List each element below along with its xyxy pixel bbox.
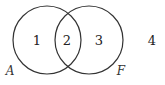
region-3-label: 3: [95, 33, 103, 48]
region-2-label: 2: [63, 33, 71, 48]
set-f-label: F: [116, 64, 126, 78]
venn-diagram: 1 2 3 4 A F: [0, 0, 165, 85]
set-a-label: A: [5, 64, 15, 78]
region-4-label: 4: [148, 33, 156, 48]
region-1-label: 1: [33, 33, 41, 48]
